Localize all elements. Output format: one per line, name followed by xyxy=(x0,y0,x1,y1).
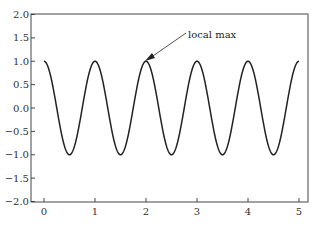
x-tick-label: 2 xyxy=(143,206,149,217)
annotation-label: local max xyxy=(188,29,237,40)
y-tick-label: 0.5 xyxy=(13,79,29,90)
y-tick-label: −2.0 xyxy=(5,196,29,207)
chart-background xyxy=(0,0,322,227)
x-tick-label: 0 xyxy=(41,206,47,217)
x-tick-label: 1 xyxy=(92,206,98,217)
y-tick-label: −1.5 xyxy=(5,173,29,184)
y-tick-label: 1.5 xyxy=(13,32,29,43)
y-tick-label: 1.0 xyxy=(13,56,29,67)
y-tick-label: 0.0 xyxy=(13,103,29,114)
y-tick-label: −0.5 xyxy=(5,126,29,137)
x-tick-label: 3 xyxy=(194,206,200,217)
y-tick-label: −1.0 xyxy=(5,149,29,160)
y-tick-label: 2.0 xyxy=(13,9,29,20)
x-tick-label: 4 xyxy=(245,206,251,217)
line-chart: 012345 2.01.51.00.50.0−0.5−1.0−1.5−2.0 l… xyxy=(0,0,322,227)
x-tick-label: 5 xyxy=(296,206,302,217)
